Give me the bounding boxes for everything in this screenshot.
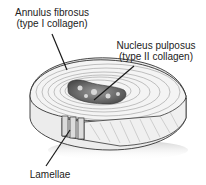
annulus-fibrosus-label: Annulus fibrosus (type I collagen) bbox=[4, 7, 100, 29]
nucleus-label-line1: Nucleus pulposus bbox=[110, 40, 202, 51]
annulus-label-line1: Annulus fibrosus bbox=[4, 7, 100, 18]
nucleus-pulposus-label: Nucleus pulposus (type II collagen) bbox=[110, 40, 202, 62]
nucleus-label-line2: (type II collagen) bbox=[110, 51, 202, 62]
lamellae-label-line1: Lamellae bbox=[20, 169, 80, 180]
lamellae-cut-layers bbox=[62, 116, 84, 139]
annulus-label-line2: (type I collagen) bbox=[4, 18, 100, 29]
lamellae-label: Lamellae bbox=[20, 169, 80, 180]
